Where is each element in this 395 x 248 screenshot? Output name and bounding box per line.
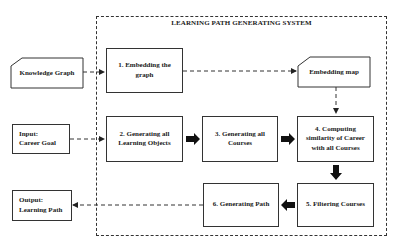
step-1-line2: graph — [118, 71, 171, 80]
output-label: Output: — [19, 196, 62, 205]
block-arrow-2-3 — [186, 133, 200, 145]
step-6-line1: 6. Generating Path — [213, 200, 270, 209]
block-arrow-3-4 — [281, 133, 295, 145]
step-4-computing-similarity: 4. Computing similarity of Career with a… — [297, 116, 374, 162]
knowledge-graph: Knowledge Graph — [11, 58, 83, 88]
step-2-generating-learning-objects: 2. Generating all Learning Objects — [106, 116, 183, 162]
step-4-line3: with all Courses — [306, 144, 365, 153]
step-3-line2: Courses — [215, 139, 265, 148]
step-6-generating-path: 6. Generating Path — [203, 183, 279, 227]
knowledge-graph-label: Knowledge Graph — [19, 69, 74, 77]
output-value: Learning Path — [19, 206, 62, 215]
step-3-line1: 3. Generating all — [215, 130, 265, 139]
step-1-line1: 1. Embedding the — [118, 61, 171, 70]
step-4-line1: 4. Computing — [306, 125, 365, 134]
step-5-line1: 5. Filtering Courses — [306, 200, 365, 209]
step-2-line2: Learning Objects — [118, 139, 170, 148]
block-arrow-4-5 — [330, 165, 342, 180]
embedding-map: Embedding map — [298, 57, 370, 87]
embedding-map-label: Embedding map — [309, 68, 359, 76]
step-1-embedding-graph: 1. Embedding the graph — [106, 48, 183, 93]
step-2-line1: 2. Generating all — [118, 130, 170, 139]
step-4-line2: similarity of Career — [306, 134, 365, 143]
input-career-goal: Input: Career Goal — [12, 124, 70, 154]
output-learning-path: Output: Learning Path — [12, 190, 72, 221]
step-3-generating-courses: 3. Generating all Courses — [202, 116, 278, 162]
block-arrow-5-6 — [281, 199, 295, 211]
input-label: Input: — [19, 130, 56, 139]
input-value: Career Goal — [19, 139, 56, 148]
step-5-filtering-courses: 5. Filtering Courses — [297, 183, 374, 227]
